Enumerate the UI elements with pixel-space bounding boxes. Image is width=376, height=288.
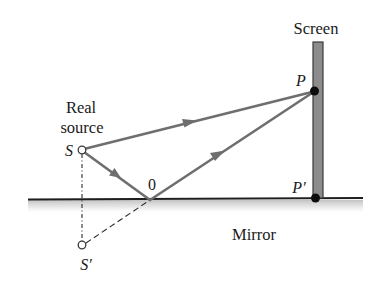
screen-bar <box>313 42 323 198</box>
source-point-s-icon <box>78 146 86 154</box>
lloyds-mirror-diagram: Screen Real source S 0 S′ P P′ Mirror <box>0 0 376 288</box>
point-p-prime-dot-icon <box>311 194 320 203</box>
point-p-prime-label: P′ <box>291 179 306 196</box>
mirror-shading <box>28 200 363 214</box>
screen-label: Screen <box>294 19 339 38</box>
reflection-point-label: 0 <box>148 176 156 193</box>
ray-reflected-o-to-p <box>150 93 312 200</box>
source-label: source <box>60 118 103 137</box>
image-source-point-s-prime-icon <box>78 241 86 249</box>
ray-direct-s-to-p <box>84 92 312 149</box>
image-source-label: S′ <box>80 256 92 273</box>
screen <box>313 42 323 198</box>
mirror-label: Mirror <box>232 225 276 244</box>
point-p-label: P <box>295 72 306 89</box>
point-p-dot-icon <box>310 87 319 96</box>
arrowhead-icon <box>182 119 197 128</box>
real-label: Real <box>66 98 97 117</box>
source-point-label: S <box>65 142 73 159</box>
ray-incident-s-to-o <box>84 152 150 200</box>
